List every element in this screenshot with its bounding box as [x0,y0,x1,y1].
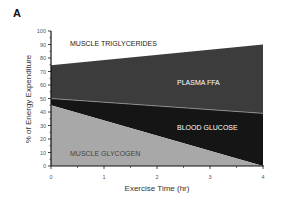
label-blood-glucose: BLOOD GLUCOSE [177,124,238,131]
svg-text:70: 70 [40,69,46,75]
svg-text:30: 30 [40,123,46,129]
svg-text:20: 20 [40,136,46,142]
y-tick-labels: 0 10 20 30 40 50 60 70 80 90 100 [37,28,46,169]
svg-text:1: 1 [102,174,105,180]
y-ticks [48,31,51,166]
svg-text:3: 3 [208,174,211,180]
svg-text:40: 40 [40,109,46,115]
y-axis-title: % of Energy Expenditure [24,54,33,143]
svg-text:100: 100 [37,28,46,34]
stacked-area-chart: A 0 10 20 30 40 [0,0,282,210]
x-axis-title: Exercise Time (hr) [125,184,190,193]
svg-text:80: 80 [40,55,46,61]
svg-text:60: 60 [40,82,46,88]
svg-text:50: 50 [40,96,46,102]
label-muscle-triglycerides: MUSCLE TRIGLYCERIDES [70,40,157,47]
svg-text:90: 90 [40,42,46,48]
label-muscle-glycogen: MUSCLE GLYCOGEN [70,150,140,157]
label-plasma-ffa: PLASMA FFA [177,79,220,86]
svg-text:10: 10 [40,150,46,156]
panel-letter: A [13,7,21,19]
svg-text:0: 0 [49,174,52,180]
svg-text:0: 0 [43,163,46,169]
x-tick-labels: 0 1 2 3 4 [49,174,264,180]
svg-text:4: 4 [261,174,264,180]
svg-text:2: 2 [155,174,158,180]
